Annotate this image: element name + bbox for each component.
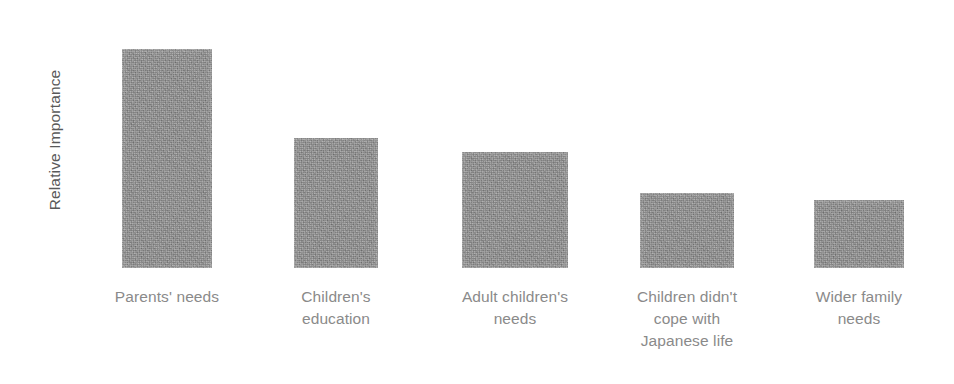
bar-rect-2 [294,138,378,268]
bar-rect-1 [122,49,212,268]
x-axis-category-labels: Parents' needsChildren's educationAdult … [0,280,954,384]
bar-rect-5 [814,200,904,268]
bar-rect-4 [640,193,734,268]
category-label-3: Adult children's needs [432,286,598,330]
category-label-1: Parents' needs [87,286,247,308]
bar-1[interactable] [122,49,212,268]
bar-3[interactable] [462,152,568,268]
bar-rect-3 [462,152,568,268]
bar-5[interactable] [814,200,904,268]
bar-2[interactable] [294,138,378,268]
category-label-4: Children didn't cope with Japanese life [602,286,772,352]
plot-area [0,0,954,280]
bar-chart: Relative Importance Parents' needsChildr… [0,0,954,384]
bar-4[interactable] [640,193,734,268]
category-label-2: Children's education [270,286,402,330]
category-label-5: Wider family needs [779,286,939,330]
